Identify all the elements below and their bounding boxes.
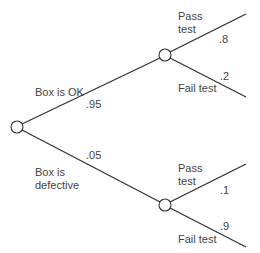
label-ok-fail: Fail test (178, 82, 217, 94)
prob-ok-fail: .2 (220, 70, 229, 82)
label-box-defective-line2: defective (35, 179, 79, 191)
label-box-defective-line1: Box is (35, 166, 65, 178)
label-ok-pass-line2: test (178, 23, 196, 35)
label-defective-fail: Fail test (178, 233, 217, 245)
prob-box-defective: .05 (86, 149, 101, 161)
probability-tree-diagram: Box is OK .95 .05 Box is defective Pass … (0, 0, 260, 253)
label-ok-pass-line1: Pass (178, 10, 203, 22)
box-ok-node (159, 49, 171, 61)
prob-defective-pass: .1 (220, 184, 229, 196)
label-defective-pass-line2: test (178, 175, 196, 187)
label-defective-pass-line1: Pass (178, 162, 203, 174)
label-box-ok: Box is OK (35, 86, 85, 98)
prob-box-ok: .95 (86, 98, 101, 110)
prob-ok-pass: .8 (219, 33, 228, 45)
box-defective-node (159, 199, 171, 211)
root-node (11, 121, 23, 133)
prob-defective-fail: .9 (220, 220, 229, 232)
